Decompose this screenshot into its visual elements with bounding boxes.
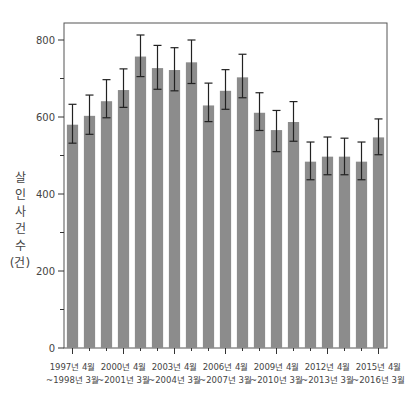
x-tick-label: 2006년 4월 <box>203 362 249 372</box>
bar <box>305 162 316 348</box>
y-tick-label: 400 <box>36 189 55 200</box>
x-tick-label: 2003년 4월 <box>152 362 198 372</box>
bar <box>339 157 350 348</box>
bar <box>186 62 197 348</box>
bar-chart: 02004006008001997년 4월~1998년 3월2000년 4월~2… <box>0 0 416 406</box>
bar <box>152 68 163 348</box>
x-tick-label: ~2004년 3월 <box>148 375 201 385</box>
x-tick-label: 2009년 4월 <box>254 362 300 372</box>
bar <box>373 137 384 348</box>
bar <box>203 105 214 348</box>
x-tick-label: ~2013년 3월 <box>301 375 354 385</box>
x-tick-label: 2012년 4월 <box>305 362 351 372</box>
x-tick-label: ~2016년 3월 <box>352 375 405 385</box>
bar <box>169 70 180 348</box>
y-tick-label: 0 <box>49 343 55 354</box>
x-tick-label: ~1998년 3월 <box>46 375 99 385</box>
bar <box>118 90 129 348</box>
x-tick-label: 2015년 4월 <box>356 362 402 372</box>
bar <box>271 130 282 348</box>
bar <box>67 125 78 348</box>
x-tick-label: ~2001년 3월 <box>97 375 150 385</box>
bar <box>288 122 299 348</box>
x-tick-label: 1997년 4월 <box>50 362 96 372</box>
bar <box>84 116 95 348</box>
bar <box>322 157 333 348</box>
bar <box>254 113 265 348</box>
y-tick-label: 800 <box>36 35 55 46</box>
y-tick-label: 600 <box>36 112 55 123</box>
bar <box>101 101 112 348</box>
bar <box>220 91 231 348</box>
y-tick-label: 200 <box>36 266 55 277</box>
bar <box>135 57 146 348</box>
bar <box>356 162 367 348</box>
bar <box>237 77 248 348</box>
x-tick-label: ~2007년 3월 <box>199 375 252 385</box>
x-tick-label: 2000년 4월 <box>101 362 147 372</box>
x-tick-label: ~2010년 3월 <box>250 375 303 385</box>
